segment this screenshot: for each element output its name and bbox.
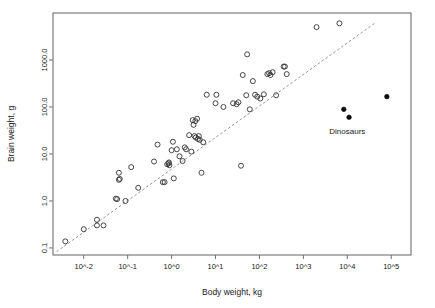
data-point (199, 170, 204, 175)
data-point (174, 147, 179, 152)
data-point (136, 185, 141, 190)
data-point (221, 104, 226, 109)
y-tick-label-4: 1000.0 (40, 49, 49, 72)
data-point (155, 142, 160, 147)
data-point (244, 93, 249, 98)
x-tick-label-2: 10^0 (164, 262, 180, 271)
data-point (94, 223, 99, 228)
y-tick-label-1: 1.0 (40, 196, 49, 206)
data-point (213, 101, 218, 106)
x-tick-label-6: 10^4 (339, 262, 355, 271)
data-point (187, 133, 192, 138)
data-point (337, 21, 342, 26)
chart-figure: 10^-210^-110^010^110^210^310^410^5 0.11.… (0, 0, 435, 308)
chart-annotations: Dinosaurs (329, 127, 365, 136)
data-point (385, 94, 390, 99)
x-axis-title: Body weight, kg (202, 287, 262, 297)
data-point (171, 176, 176, 181)
data-point (170, 139, 175, 144)
x-tick-label-4: 10^2 (251, 262, 267, 271)
data-point (94, 217, 99, 222)
data-point (247, 107, 252, 112)
data-point (129, 165, 134, 170)
data-point (169, 148, 174, 153)
data-point (214, 92, 219, 97)
x-tick-label-7: 10^5 (383, 262, 399, 271)
y-axis-title: Brain weight, g (6, 106, 16, 162)
data-point (204, 92, 209, 97)
data-point (245, 52, 250, 57)
y-tick-label-3: 100.0 (40, 98, 49, 117)
y-tick-label-0: 0.1 (40, 243, 49, 253)
data-point (63, 239, 68, 244)
data-point (189, 149, 194, 154)
data-point (314, 25, 319, 30)
trend-line (57, 23, 375, 251)
x-tick-label-5: 10^3 (295, 262, 311, 271)
data-point (116, 170, 121, 175)
y-tick-label-2: 10.0 (40, 147, 49, 162)
data-point (101, 223, 106, 228)
data-point (240, 73, 245, 78)
data-points-mammals (63, 21, 342, 244)
data-point (261, 92, 266, 97)
data-point (239, 163, 244, 168)
data-point (231, 101, 236, 106)
y-axis-ticks: 0.11.010.0100.01000.0 (40, 49, 53, 254)
data-point (347, 115, 352, 120)
data-point (284, 72, 289, 77)
scatter-plot: 10^-210^-110^010^110^210^310^410^5 0.11.… (0, 0, 435, 308)
data-point (81, 227, 86, 232)
data-point (152, 159, 157, 164)
x-tick-label-1: 10^-1 (118, 262, 137, 271)
data-point (177, 154, 182, 159)
x-axis-ticks: 10^-210^-110^010^110^210^310^410^5 (74, 255, 399, 271)
data-point (250, 79, 255, 84)
x-tick-label-3: 10^1 (208, 262, 224, 271)
data-point (341, 107, 346, 112)
data-points-dinosaurs (341, 94, 389, 119)
annotation-dinosaurs: Dinosaurs (329, 127, 365, 136)
x-tick-label-0: 10^-2 (74, 262, 93, 271)
